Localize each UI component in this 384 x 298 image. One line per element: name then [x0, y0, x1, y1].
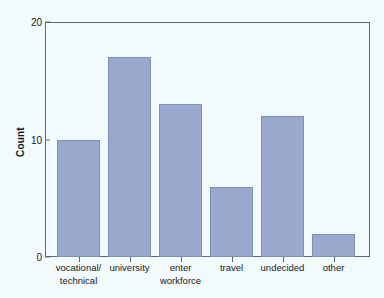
y-tick-label-0: 0: [20, 252, 42, 263]
y-tick-label-20: 20: [20, 17, 42, 28]
bar-university[interactable]: [108, 57, 151, 257]
bar-chart: Count 20 10 0 vocational/ technical univ…: [0, 0, 384, 298]
x-tick-label-other: other: [302, 262, 365, 275]
bar-vocational-technical[interactable]: [57, 140, 100, 258]
bar-other[interactable]: [312, 234, 355, 258]
bar-travel[interactable]: [210, 187, 253, 258]
x-tick-label-line-2: workforce: [149, 275, 212, 288]
y-tick-label-10: 10: [20, 134, 42, 145]
x-axis-labels: vocational/ technical university enter w…: [45, 262, 370, 296]
bar-undecided[interactable]: [261, 116, 304, 257]
bar-enter-workforce[interactable]: [159, 104, 202, 257]
x-tick-label-line-1: other: [302, 262, 365, 275]
y-axis-ticks: 20 10 0: [16, 0, 42, 298]
x-tick-label-line-2: technical: [47, 275, 110, 288]
plot-area: [45, 22, 370, 257]
